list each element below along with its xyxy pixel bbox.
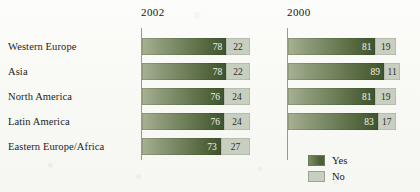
legend-swatch-yes-icon xyxy=(308,155,325,166)
bar-segment-no: 27 xyxy=(221,138,250,155)
category-label: Eastern Europe/Africa xyxy=(8,134,136,159)
legend-item-yes: Yes xyxy=(308,152,347,168)
bar-segment-no: 19 xyxy=(375,88,396,105)
legend: Yes No xyxy=(308,152,347,184)
bar-segment-yes: 81 xyxy=(288,88,375,105)
stacked-bar: 7822 xyxy=(142,38,250,55)
legend-label-yes: Yes xyxy=(332,155,347,166)
bar-row: 7624 xyxy=(142,109,250,134)
bar-row: 7822 xyxy=(142,34,250,59)
bar-row: 7624 xyxy=(142,84,250,109)
bar-segment-no: 24 xyxy=(224,113,250,130)
bar-segment-no: 24 xyxy=(224,88,250,105)
bar-segment-no: 22 xyxy=(226,38,250,55)
bar-row: 8119 xyxy=(288,84,400,109)
category-label: Western Europe xyxy=(8,34,136,59)
stacked-bar: 8317 xyxy=(288,113,396,130)
bar-rows-2002: 78227822762476247327 xyxy=(142,34,250,159)
legend-item-no: No xyxy=(308,168,347,184)
bar-row: 8119 xyxy=(288,34,400,59)
legend-label-no: No xyxy=(332,171,345,182)
stacked-bar-chart: Western Europe Asia North America Latin … xyxy=(0,0,420,192)
bar-row: 7327 xyxy=(142,134,250,159)
group-title-2002: 2002 xyxy=(141,6,165,18)
group-title-2000: 2000 xyxy=(287,6,311,18)
category-label: North America xyxy=(8,84,136,109)
bar-segment-yes: 76 xyxy=(142,88,224,105)
bar-segment-yes: 76 xyxy=(142,113,224,130)
bar-segment-no: 19 xyxy=(375,38,396,55)
stacked-bar: 7822 xyxy=(142,63,250,80)
legend-swatch-no-icon xyxy=(308,171,325,182)
bar-segment-yes: 78 xyxy=(142,63,226,80)
bar-row: 8911 xyxy=(288,59,400,84)
category-label: Latin America xyxy=(8,109,136,134)
category-label-column: Western Europe Asia North America Latin … xyxy=(8,34,136,159)
bar-segment-yes: 83 xyxy=(288,113,378,130)
bar-row: 7822 xyxy=(142,59,250,84)
bar-segment-no: 11 xyxy=(384,63,400,80)
bar-segment-yes: 81 xyxy=(288,38,375,55)
stacked-bar: 8119 xyxy=(288,88,396,105)
bar-rows-2000: 8119891181198317 xyxy=(288,34,400,159)
bar-row: 8317 xyxy=(288,109,400,134)
stacked-bar: 7327 xyxy=(142,138,250,155)
stacked-bar: 8911 xyxy=(288,63,400,80)
stacked-bar: 7624 xyxy=(142,113,250,130)
category-label: Asia xyxy=(8,59,136,84)
bar-segment-yes: 78 xyxy=(142,38,226,55)
bar-segment-no: 22 xyxy=(226,63,250,80)
bar-segment-no: 17 xyxy=(378,113,396,130)
stacked-bar: 7624 xyxy=(142,88,250,105)
stacked-bar: 8119 xyxy=(288,38,396,55)
bar-segment-yes: 89 xyxy=(288,63,384,80)
bar-segment-yes: 73 xyxy=(142,138,221,155)
